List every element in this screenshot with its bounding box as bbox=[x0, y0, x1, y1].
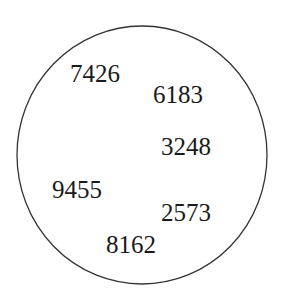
number-label: 6183 bbox=[153, 81, 203, 108]
number-label: 7426 bbox=[70, 60, 120, 87]
number-label: 9455 bbox=[52, 176, 102, 203]
number-label: 3248 bbox=[161, 133, 211, 160]
number-label: 8162 bbox=[106, 231, 156, 258]
diagram-canvas: 7426 6183 3248 9455 2573 8162 bbox=[0, 0, 283, 296]
number-label: 2573 bbox=[161, 199, 211, 226]
